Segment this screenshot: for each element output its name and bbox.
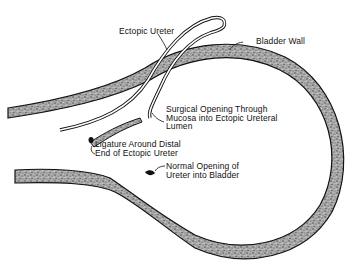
label-surgical-opening: Surgical Opening Through Mucosa into Ect… xyxy=(166,105,277,131)
label-ligature: Ligature Around Distal End of Ectopic Ur… xyxy=(95,140,181,157)
ectopic-ureter-diagram: Ectopic Ureter Bladder Wall Surgical Ope… xyxy=(0,0,347,266)
normal-opening-marker xyxy=(145,170,155,175)
label-line: Ureter into Bladder xyxy=(166,171,239,180)
label-line: End of Ectopic Ureter xyxy=(95,149,181,158)
label-text: Bladder Wall xyxy=(256,37,305,46)
label-ectopic-ureter: Ectopic Ureter xyxy=(119,27,174,36)
label-bladder-wall: Bladder Wall xyxy=(256,37,305,46)
label-line: Lumen xyxy=(166,122,277,131)
label-normal-opening: Normal Opening of Ureter into Bladder xyxy=(166,162,239,179)
label-text: Ectopic Ureter xyxy=(119,27,174,36)
ligature-knot xyxy=(89,137,94,143)
